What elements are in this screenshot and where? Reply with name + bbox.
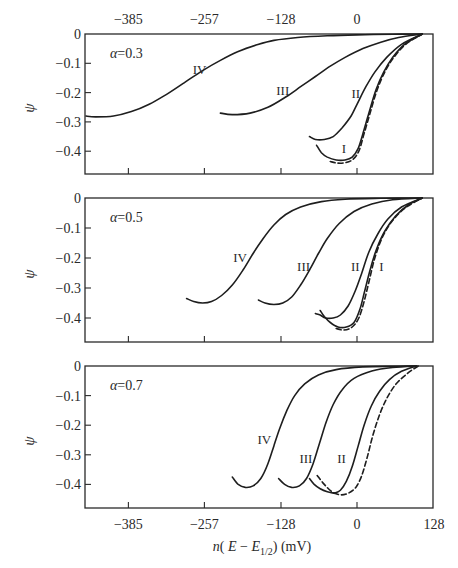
curve-label-iii: III	[299, 451, 312, 466]
bottom-x-tick-label: −128	[267, 517, 296, 532]
curve-label-ii: II	[337, 451, 346, 466]
bottom-x-axis: −385−257−1280128n( E − E1/2) (mV)	[114, 517, 445, 557]
curve-ii	[315, 198, 422, 318]
y-tick-label: −0.3	[56, 448, 81, 463]
alpha-annotation: α=0.7	[110, 378, 143, 393]
bottom-x-tick-label: 128	[424, 517, 445, 532]
curve-label-iv: IV	[258, 432, 272, 447]
panel-alpha-0.5: 0−0.1−0.2−0.3−0.4ψα=0.5IVIIIIII	[21, 191, 433, 342]
y-tick-label: −0.1	[56, 56, 81, 71]
y-axis-label: ψ	[21, 269, 37, 279]
curve-label-iv: IV	[193, 62, 207, 77]
curve-label-iii: III	[276, 83, 289, 98]
curve-i	[320, 198, 422, 328]
y-axis-label: ψ	[21, 103, 37, 113]
top-x-axis-labels: −385−257−1280	[114, 12, 361, 27]
y-axis-label: ψ	[21, 436, 37, 446]
y-tick-label: −0.3	[56, 115, 81, 130]
y-tick-label: −0.2	[56, 418, 81, 433]
curve-label-iv: IV	[233, 250, 247, 265]
curve-label-ii: II	[351, 86, 360, 101]
y-tick-label: −0.2	[56, 251, 81, 266]
panels: 0−0.1−0.2−0.3−0.4ψα=0.3IVIIIIII0−0.1−0.2…	[21, 27, 433, 508]
curve-label-i: I	[342, 141, 346, 156]
top-x-tick-label: 0	[354, 12, 361, 27]
bottom-x-tick-label: −257	[190, 517, 219, 532]
curve-i	[317, 34, 423, 160]
alpha-annotation: α=0.5	[110, 210, 143, 225]
panel-alpha-0.3: 0−0.1−0.2−0.3−0.4ψα=0.3IVIIIIII	[21, 27, 433, 174]
curve-label-i: I	[379, 259, 383, 274]
figure: −385−257−1280 0−0.1−0.2−0.3−0.4ψα=0.3IVI…	[0, 0, 458, 568]
y-tick-label: −0.2	[56, 86, 81, 101]
bottom-x-tick-label: 0	[354, 517, 361, 532]
y-tick-label: −0.3	[56, 281, 81, 296]
y-tick-label: 0	[74, 359, 81, 374]
curve-label-ii: II	[351, 259, 360, 274]
x-axis-label: n( E − E1/2) (mV)	[213, 539, 312, 557]
top-x-tick-label: −257	[190, 12, 219, 27]
y-tick-label: −0.1	[56, 389, 81, 404]
y-tick-label: 0	[74, 191, 81, 206]
top-x-tick-label: −385	[114, 12, 143, 27]
y-tick-label: 0	[74, 27, 81, 42]
curve-label-iii: III	[297, 259, 310, 274]
y-tick-label: −0.1	[56, 221, 81, 236]
y-tick-label: −0.4	[56, 477, 81, 492]
curve-iv	[187, 198, 423, 303]
alpha-annotation: α=0.3	[110, 46, 143, 61]
bottom-x-tick-label: −385	[114, 517, 143, 532]
psi-vs-potential-chart: −385−257−1280 0−0.1−0.2−0.3−0.4ψα=0.3IVI…	[0, 0, 458, 568]
y-tick-label: −0.4	[56, 311, 81, 326]
panel-alpha-0.7: 0−0.1−0.2−0.3−0.4ψα=0.7IVIIIII	[21, 359, 433, 508]
top-x-tick-label: −128	[267, 12, 296, 27]
y-tick-label: −0.4	[56, 144, 81, 159]
curve-reference	[317, 366, 418, 495]
